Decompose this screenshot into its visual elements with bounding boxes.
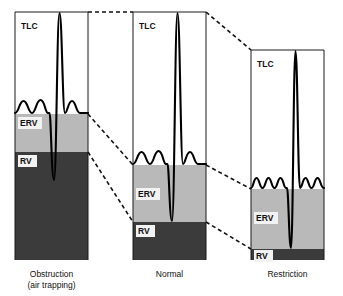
rv-label-normal: RV bbox=[138, 226, 150, 236]
panel-normal: TLC ERV RV Normal bbox=[133, 12, 206, 279]
caption-obstruction-line2: (air trapping) bbox=[27, 280, 75, 290]
tlc-label-normal: TLC bbox=[139, 21, 156, 31]
rv-label-obstruction: RV bbox=[20, 156, 32, 166]
tlc-label-restriction: TLC bbox=[257, 59, 274, 69]
lung-volume-figure: TLC ERV RV Obstruction (air trapping) TL… bbox=[0, 0, 343, 296]
rv-label-restriction: RV bbox=[256, 251, 268, 261]
tlc-label-obstruction: TLC bbox=[21, 21, 38, 31]
caption-normal-line1: Normal bbox=[156, 269, 184, 279]
caption-obstruction-line1: Obstruction bbox=[30, 269, 74, 279]
connector-erv-normal-restriction bbox=[206, 165, 251, 189]
caption-restriction-line1: Restriction bbox=[267, 269, 307, 279]
figure-canvas: TLC ERV RV Obstruction (air trapping) TL… bbox=[0, 0, 343, 296]
connector-rv-normal-restriction bbox=[206, 222, 251, 249]
connector-tlc-normal-restriction bbox=[206, 12, 251, 50]
panel-restriction: TLC ERV RV Restriction bbox=[251, 50, 324, 279]
connector-rv-obstruction-normal bbox=[88, 152, 133, 222]
connector-erv-obstruction-normal bbox=[88, 114, 133, 165]
erv-label-obstruction: ERV bbox=[20, 118, 38, 128]
erv-label-restriction: ERV bbox=[256, 213, 274, 223]
panel-obstruction: TLC ERV RV Obstruction (air trapping) bbox=[15, 12, 88, 290]
erv-label-normal: ERV bbox=[138, 189, 156, 199]
